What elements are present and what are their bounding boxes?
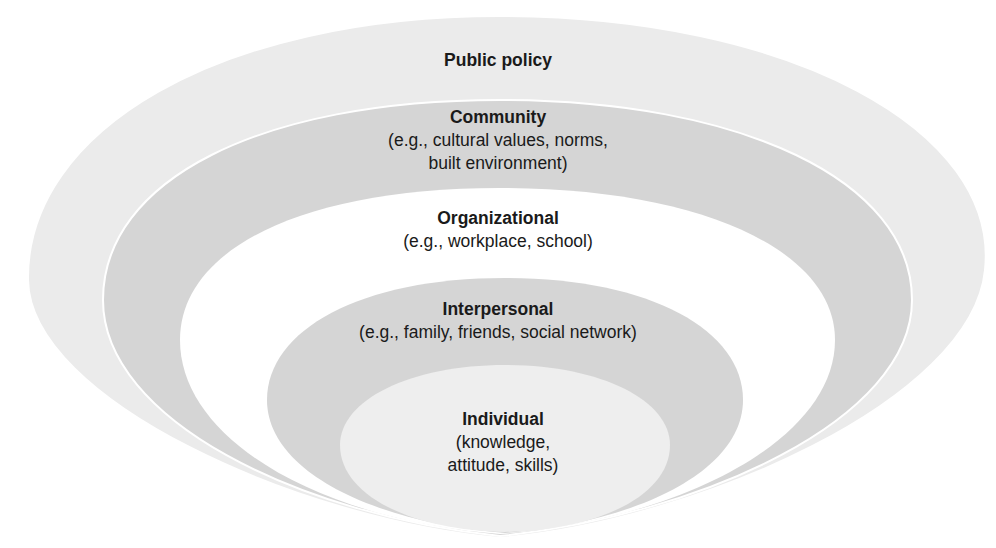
label-public-policy: Public policy <box>0 49 996 72</box>
layer-description: (e.g., family, friends, social network) <box>0 321 996 344</box>
layer-title: Organizational <box>0 207 996 230</box>
label-individual: Individual (knowledge, attitude, skills) <box>5 408 996 477</box>
layer-title: Public policy <box>0 49 996 72</box>
layer-description: (knowledge, <box>5 431 996 454</box>
layer-title: Community <box>0 106 996 129</box>
label-interpersonal: Interpersonal (e.g., family, friends, so… <box>0 298 996 344</box>
layer-description: (e.g., cultural values, norms, <box>0 129 996 152</box>
layer-description: built environment) <box>0 152 996 175</box>
layer-description: attitude, skills) <box>5 454 996 477</box>
layer-title: Interpersonal <box>0 298 996 321</box>
layer-description: (e.g., workplace, school) <box>0 230 996 253</box>
label-organizational: Organizational (e.g., workplace, school) <box>0 207 996 253</box>
label-community: Community (e.g., cultural values, norms,… <box>0 106 996 175</box>
layer-title: Individual <box>5 408 996 431</box>
